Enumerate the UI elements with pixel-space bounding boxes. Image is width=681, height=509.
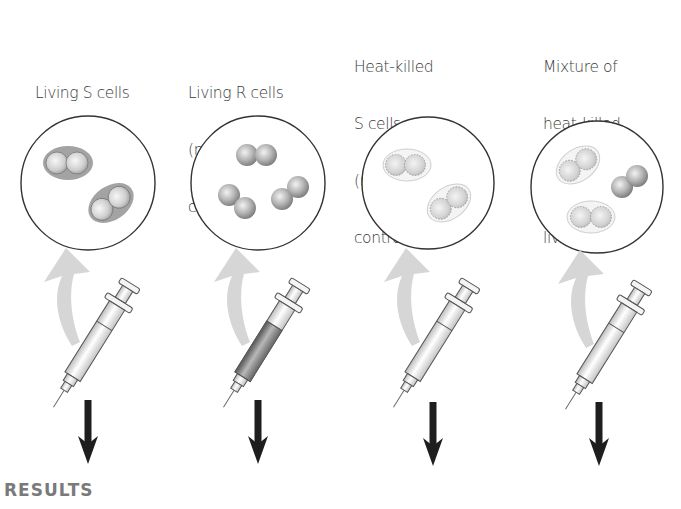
injection-arrow-icon xyxy=(558,250,604,348)
culture-dish xyxy=(531,121,663,253)
injection-arrow-icon xyxy=(384,248,430,346)
results-heading: RESULTS xyxy=(4,480,94,500)
s-cell-pair-icon xyxy=(43,146,93,180)
syringe-icon xyxy=(41,275,144,415)
syringe-icon xyxy=(211,275,314,415)
column-mixture xyxy=(531,121,663,466)
column-living-s xyxy=(21,116,155,464)
down-arrow-icon xyxy=(589,402,609,466)
syringe-icon xyxy=(553,277,656,417)
experiment-diagram xyxy=(0,0,681,509)
down-arrow-icon xyxy=(423,402,443,466)
column-living-r xyxy=(191,116,325,464)
culture-dish xyxy=(21,116,155,250)
column-heat-killed-s xyxy=(362,117,494,466)
down-arrow-icon xyxy=(248,400,268,464)
culture-dish xyxy=(362,117,494,249)
injection-arrow-icon xyxy=(214,248,260,346)
syringe-icon xyxy=(381,275,484,415)
injection-arrow-icon xyxy=(44,248,90,346)
dead-s-cell-pair-icon xyxy=(383,149,431,181)
dead-s-cell-pair-icon xyxy=(567,201,615,233)
down-arrow-icon xyxy=(78,400,98,464)
